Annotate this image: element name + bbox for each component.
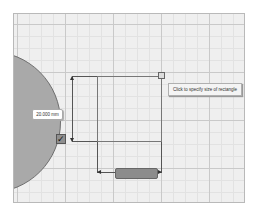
height-dimension-input[interactable]: 20.000 mm bbox=[32, 109, 63, 120]
vertical-dimension-line bbox=[72, 76, 73, 142]
rectangle-preview bbox=[97, 76, 162, 142]
checkmark-icon: ✓ bbox=[57, 134, 65, 144]
arrow-right-icon bbox=[158, 170, 162, 174]
width-dimension-input[interactable] bbox=[115, 168, 158, 179]
rectangle-corner-handle[interactable] bbox=[158, 72, 165, 79]
vertical-extension-top bbox=[72, 76, 97, 77]
horizontal-extension-left bbox=[97, 142, 98, 173]
confirm-checkbox[interactable]: ✓ bbox=[56, 134, 66, 144]
arrow-down-icon bbox=[70, 138, 74, 142]
vertical-extension-bottom bbox=[72, 141, 97, 142]
arrow-left-icon bbox=[97, 170, 101, 174]
horizontal-extension-right bbox=[161, 142, 162, 173]
arrow-up-icon bbox=[70, 76, 74, 80]
sketch-canvas[interactable]: 20.000 mm ✓ Click to specify size of rec… bbox=[13, 13, 245, 203]
circle-shape bbox=[13, 51, 61, 193]
tooltip: Click to specify size of rectangle bbox=[168, 83, 242, 96]
